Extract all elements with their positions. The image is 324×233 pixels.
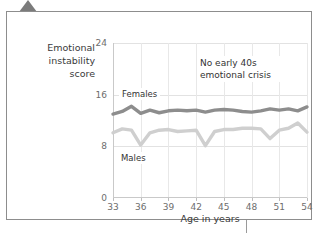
x-tick-label: 33 (102, 202, 124, 212)
gridline-v (307, 43, 308, 198)
series-label-males: Males (118, 152, 149, 164)
chart-callout-card: Emotional instability score 241680 33363… (6, 11, 312, 220)
x-tick-mark (307, 198, 308, 201)
chart-annotation: No early 40s emotional crisis (198, 56, 302, 82)
x-tick-label: 51 (268, 202, 290, 212)
x-tick-label: 54 (296, 202, 318, 212)
x-axis-title: Age in years (113, 213, 307, 224)
series-line-males (113, 123, 307, 146)
annotation-line-2: emotional crisis (200, 70, 271, 80)
series-line-females (113, 106, 307, 114)
screenshot-root: Emotional instability score 241680 33363… (0, 0, 324, 233)
x-tick-label: 42 (185, 202, 207, 212)
x-tick-mark (196, 198, 197, 201)
x-tick-mark (279, 198, 280, 201)
callout-connector-line (246, 220, 247, 233)
y-tick-label: 24 (87, 38, 107, 48)
x-tick-mark (168, 198, 169, 201)
x-tick-label: 39 (157, 202, 179, 212)
annotation-line-1: No early 40s (200, 58, 257, 68)
y-tick-label: 16 (87, 90, 107, 100)
x-tick-mark (224, 198, 225, 201)
x-tick-mark (252, 198, 253, 201)
x-tick-label: 48 (241, 202, 263, 212)
x-tick-mark (141, 198, 142, 201)
y-tick-label: 8 (87, 141, 107, 151)
x-tick-mark (113, 198, 114, 201)
series-label-females: Females (119, 88, 160, 100)
x-tick-label: 36 (130, 202, 152, 212)
x-tick-label: 45 (213, 202, 235, 212)
y-axis-title: Emotional instability score (21, 41, 95, 80)
